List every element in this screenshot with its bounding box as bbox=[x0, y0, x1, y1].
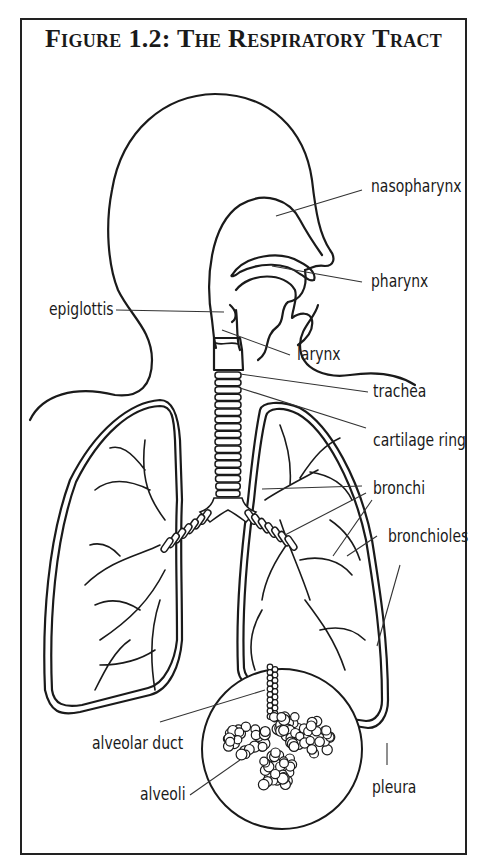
label-trachea: trachea bbox=[373, 383, 426, 400]
label-pharynx: pharynx bbox=[371, 273, 428, 290]
respiratory-tract-illustration bbox=[0, 0, 481, 858]
label-alveolar-duct: alveolar duct bbox=[92, 735, 183, 752]
cartilage-rings bbox=[215, 372, 241, 497]
label-nasopharynx: nasopharynx bbox=[371, 178, 461, 195]
label-bronchioles: bronchioles bbox=[388, 528, 468, 545]
label-epiglottis: epiglottis bbox=[49, 301, 114, 318]
trachea bbox=[212, 310, 243, 370]
label-pleura: pleura bbox=[372, 779, 416, 796]
label-cartilage-ring: cartilage ring bbox=[373, 432, 466, 449]
label-alveoli: alveoli bbox=[140, 786, 186, 803]
label-bronchi: bronchi bbox=[373, 480, 425, 497]
label-larynx: larynx bbox=[297, 346, 340, 363]
